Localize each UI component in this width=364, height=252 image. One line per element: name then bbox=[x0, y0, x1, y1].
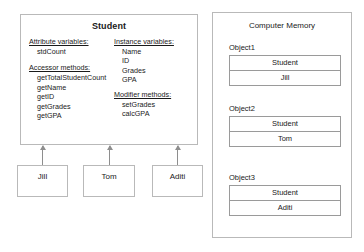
memory-object-1: Object1 Student Jill bbox=[229, 43, 341, 86]
student-class-body: Attribute variables: stdCount Accessor m… bbox=[21, 37, 197, 120]
spacer bbox=[29, 56, 112, 63]
arrow-aditi-to-student bbox=[177, 146, 178, 165]
memory-object-table: Student Tom bbox=[229, 116, 341, 147]
memory-object-label: Object3 bbox=[229, 173, 341, 182]
instance-variables-list: Name ID Grades GPA bbox=[114, 47, 197, 85]
instance-label: Tom bbox=[101, 172, 116, 181]
list-item: Name bbox=[122, 47, 197, 56]
list-item: getGPA bbox=[37, 111, 112, 120]
memory-object-class: Student bbox=[230, 117, 340, 132]
instance-box-aditi: Aditi bbox=[152, 165, 203, 197]
diagram-canvas: Student Attribute variables: stdCount Ac… bbox=[0, 0, 364, 252]
instance-variables-heading: Instance variables: bbox=[114, 37, 197, 47]
memory-object-table: Student Jill bbox=[229, 55, 341, 86]
memory-object-table: Student Aditi bbox=[229, 185, 341, 216]
attribute-variables-list: stdCount bbox=[29, 47, 112, 56]
arrow-tom-to-student bbox=[109, 146, 110, 165]
memory-object-class: Student bbox=[230, 186, 340, 201]
memory-object-value: Jill bbox=[230, 71, 340, 85]
student-class-box: Student Attribute variables: stdCount Ac… bbox=[20, 14, 198, 145]
list-item: Grades bbox=[122, 66, 197, 75]
memory-object-class: Student bbox=[230, 56, 340, 71]
list-item: stdCount bbox=[37, 47, 112, 56]
list-item: setGrades bbox=[122, 100, 197, 109]
student-class-title: Student bbox=[21, 21, 197, 31]
attribute-variables-heading: Attribute variables: bbox=[29, 37, 112, 47]
student-right-column: Instance variables: Name ID Grades GPA M… bbox=[112, 37, 197, 120]
memory-object-value: Tom bbox=[230, 132, 340, 146]
memory-object-3: Object3 Student Aditi bbox=[229, 173, 341, 216]
memory-object-2: Object2 Student Tom bbox=[229, 104, 341, 147]
accessor-methods-list: getTotalStudentCount getName getID getGr… bbox=[29, 73, 112, 120]
arrow-jill-to-student bbox=[42, 146, 43, 165]
memory-object-value: Aditi bbox=[230, 201, 340, 215]
computer-memory-panel: Computer Memory Object1 Student Jill Obj… bbox=[212, 12, 352, 238]
accessor-methods-heading: Accessor methods: bbox=[29, 63, 112, 73]
memory-object-label: Object2 bbox=[229, 104, 341, 113]
computer-memory-title: Computer Memory bbox=[213, 21, 351, 30]
student-left-column: Attribute variables: stdCount Accessor m… bbox=[21, 37, 112, 120]
instance-label: Jill bbox=[38, 172, 47, 181]
list-item: calcGPA bbox=[122, 109, 197, 118]
modifier-methods-list: setGrades calcGPA bbox=[114, 100, 197, 119]
list-item: getTotalStudentCount bbox=[37, 73, 112, 82]
modifier-methods-heading: Modifier methods: bbox=[114, 90, 197, 100]
instance-box-tom: Tom bbox=[83, 165, 135, 197]
instance-box-jill: Jill bbox=[17, 165, 68, 197]
list-item: getName bbox=[37, 83, 112, 92]
instance-label: Aditi bbox=[170, 172, 186, 181]
memory-object-label: Object1 bbox=[229, 43, 341, 52]
list-item: getGrades bbox=[37, 102, 112, 111]
list-item: GPA bbox=[122, 75, 197, 84]
list-item: getID bbox=[37, 92, 112, 101]
list-item: ID bbox=[122, 56, 197, 65]
